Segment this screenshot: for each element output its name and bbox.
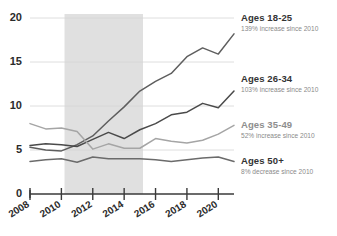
y-tick-label: 5 xyxy=(16,143,22,155)
x-tick-label: 2020 xyxy=(195,198,220,219)
y-tick-label: 10 xyxy=(10,99,22,111)
legend-entry-ages-26-34[interactable]: Ages 26-34 103% increase since 2010 xyxy=(241,73,337,94)
legend-title-ages-26-34: Ages 26-34 xyxy=(241,73,337,84)
x-tick-labels: 2008201020122014201620182020 xyxy=(6,198,219,219)
chart-legend: Ages 18-25 139% increase since 2010 Ages… xyxy=(241,0,337,236)
legend-note-ages-26-34: 103% increase since 2010 xyxy=(241,85,337,94)
x-tick-label: 2010 xyxy=(38,198,63,219)
legend-entry-ages-50-plus[interactable]: Ages 50+ 8% decrease since 2010 xyxy=(241,155,337,176)
legend-note-ages-35-49: 52% increase since 2010 xyxy=(241,131,337,140)
x-tick-label: 2016 xyxy=(132,198,157,219)
x-tick-label: 2014 xyxy=(101,198,126,219)
line-chart: 05101520 2008201020122014201620182020 Ag… xyxy=(0,0,337,236)
legend-entry-ages-18-25[interactable]: Ages 18-25 139% increase since 2010 xyxy=(241,12,337,33)
legend-title-ages-18-25: Ages 18-25 xyxy=(241,12,337,23)
legend-title-ages-35-49: Ages 35-49 xyxy=(241,119,337,130)
legend-note-ages-18-25: 139% increase since 2010 xyxy=(241,24,337,33)
recession-shading xyxy=(65,14,143,194)
legend-note-ages-50-plus: 8% decrease since 2010 xyxy=(241,167,337,176)
y-tick-label: 20 xyxy=(10,11,22,23)
x-tick-label: 2018 xyxy=(163,198,188,219)
x-tick-label: 2008 xyxy=(6,198,31,219)
legend-title-ages-50-plus: Ages 50+ xyxy=(241,155,337,166)
x-tick-label: 2012 xyxy=(69,198,94,219)
y-tick-label: 15 xyxy=(10,55,22,67)
y-tick-label: 0 xyxy=(16,187,22,199)
legend-entry-ages-35-49[interactable]: Ages 35-49 52% increase since 2010 xyxy=(241,119,337,140)
y-tick-labels: 05101520 xyxy=(10,11,22,199)
